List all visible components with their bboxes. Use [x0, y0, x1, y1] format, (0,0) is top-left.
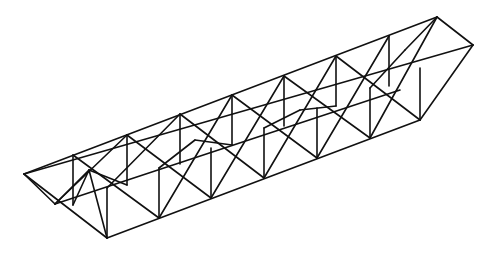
- top-chords: [24, 17, 473, 174]
- truss-diagram: [0, 0, 490, 254]
- truss-drawing: [0, 0, 490, 254]
- diagonals: [55, 17, 437, 238]
